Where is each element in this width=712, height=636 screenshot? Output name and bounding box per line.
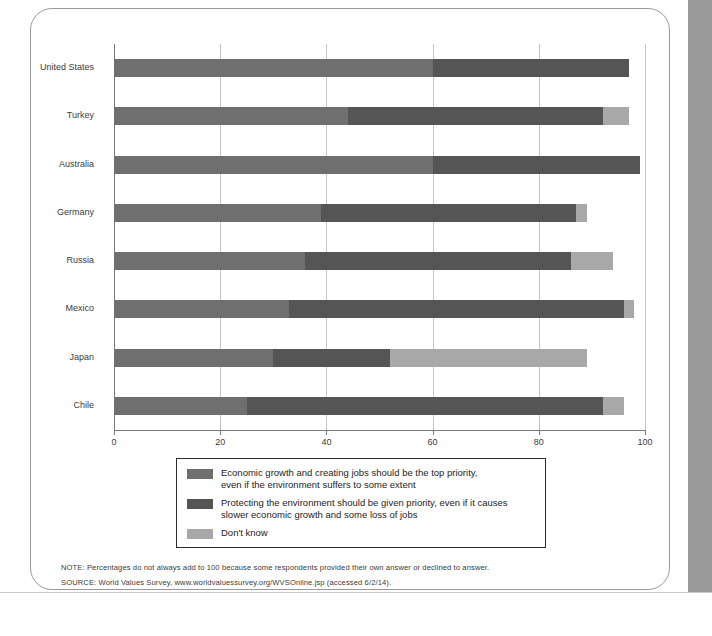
bar-segment [114, 300, 289, 318]
x-tick-60 [433, 430, 434, 435]
page-gutter [678, 0, 688, 592]
bar-segment [247, 397, 603, 415]
x-tick-label-60: 60 [428, 437, 438, 447]
category-label-russia: Russia [66, 255, 94, 265]
bar-segment [390, 349, 586, 367]
legend-item: Economic growth and creating jobs should… [187, 467, 535, 490]
category-label-germany: Germany [57, 207, 94, 217]
legend-swatch [187, 529, 213, 539]
bar-segment [114, 59, 433, 77]
legend-swatch [187, 469, 213, 479]
legend-label: Don't know [221, 527, 268, 539]
bar-segment [114, 107, 348, 125]
page-bottom-rule [0, 592, 712, 593]
bar-row [114, 59, 645, 77]
bar-segment [289, 300, 624, 318]
bar-segment [273, 349, 390, 367]
category-label-japan: Japan [69, 352, 94, 362]
bar-segment [114, 349, 273, 367]
x-axis-line [114, 430, 646, 431]
category-label-mexico: Mexico [65, 303, 94, 313]
x-tick-label-100: 100 [637, 437, 652, 447]
x-tick-label-20: 20 [215, 437, 225, 447]
bar-segment [114, 397, 247, 415]
bar-segment [603, 397, 624, 415]
x-tick-label-40: 40 [321, 437, 331, 447]
bar-segment [114, 204, 321, 222]
legend-label: Economic growth and creating jobs should… [221, 467, 477, 490]
stacked-bars [114, 44, 645, 430]
bar-row [114, 107, 645, 125]
legend-item: Protecting the environment should be giv… [187, 497, 535, 520]
category-label-australia: Australia [59, 159, 94, 169]
x-tick-0 [114, 430, 115, 435]
category-label-chile: Chile [73, 400, 94, 410]
legend-swatch [187, 499, 213, 509]
bar-row [114, 349, 645, 367]
x-tick-label-0: 0 [111, 437, 116, 447]
bar-segment [603, 107, 630, 125]
figure-container: 020406080100 United StatesTurkeyAustrali… [0, 0, 712, 636]
bar-segment [305, 252, 571, 270]
bar-segment [576, 204, 587, 222]
bar-segment [348, 107, 603, 125]
x-tick-80 [539, 430, 540, 435]
x-tick-100 [645, 430, 646, 435]
category-label-turkey: Turkey [67, 110, 94, 120]
bar-segment [571, 252, 613, 270]
bar-segment [321, 204, 576, 222]
bar-row [114, 156, 645, 174]
bar-row [114, 252, 645, 270]
bar-row [114, 397, 645, 415]
x-tick-label-80: 80 [534, 437, 544, 447]
bar-segment [433, 156, 640, 174]
x-tick-40 [326, 430, 327, 435]
chart-legend: Economic growth and creating jobs should… [176, 458, 546, 548]
bar-segment [624, 300, 635, 318]
bar-segment [433, 59, 629, 77]
bar-segment [114, 252, 305, 270]
bar-segment [114, 156, 433, 174]
page-edge-shadow [688, 0, 712, 592]
category-label-united-states: United States [40, 62, 94, 72]
y-axis-category-labels: United StatesTurkeyAustraliaGermanyRussi… [0, 44, 106, 430]
legend-label: Protecting the environment should be giv… [221, 497, 508, 520]
gridline-100 [645, 44, 646, 430]
bar-row [114, 204, 645, 222]
bar-row [114, 300, 645, 318]
legend-item: Don't know [187, 527, 535, 539]
source-text: SOURCE: World Values Survey, www.worldva… [61, 578, 391, 587]
note-text: NOTE: Percentages do not always add to 1… [61, 563, 489, 572]
x-tick-20 [220, 430, 221, 435]
